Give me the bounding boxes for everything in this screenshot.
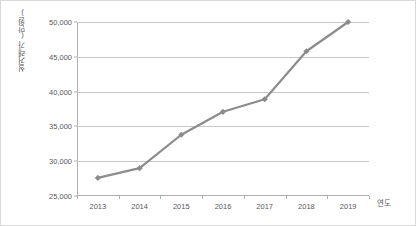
y-tick-label: 25,000 bbox=[49, 192, 72, 201]
x-tick-label: 2016 bbox=[215, 202, 232, 211]
x-tick-mark bbox=[244, 196, 245, 199]
x-tick-mark bbox=[160, 196, 161, 199]
x-tick-label: 2019 bbox=[340, 202, 357, 211]
x-tick-label: 2015 bbox=[173, 202, 190, 211]
x-tick-label: 2013 bbox=[90, 202, 107, 211]
series-line bbox=[98, 22, 348, 178]
data-point-marker bbox=[95, 175, 101, 181]
x-tick-mark bbox=[119, 196, 120, 199]
x-tick-label: 2018 bbox=[298, 202, 315, 211]
x-axis-title: 연도 bbox=[377, 197, 390, 208]
y-axis-title: 실거래가(만원) bbox=[13, 9, 31, 119]
y-tick-label: 40,000 bbox=[49, 87, 72, 96]
x-tick-label: 2017 bbox=[256, 202, 273, 211]
x-tick-mark bbox=[202, 196, 203, 199]
x-tick-mark bbox=[286, 196, 287, 199]
y-tick-label: 50,000 bbox=[49, 18, 72, 27]
chart-figure: 실거래가(만원) 25,00030,00035,00040,00045,0005… bbox=[0, 0, 416, 226]
y-tick-label: 35,000 bbox=[49, 122, 72, 131]
x-tick-mark bbox=[327, 196, 328, 199]
y-axis-title-text: 실거래가(만원) bbox=[17, 9, 28, 72]
plot-area: 25,00030,00035,00040,00045,00050,000 201… bbox=[77, 22, 369, 196]
x-tick-mark bbox=[369, 196, 370, 199]
x-tick-label: 2014 bbox=[131, 202, 148, 211]
y-tick-label: 45,000 bbox=[49, 52, 72, 61]
line-series bbox=[77, 22, 369, 196]
y-tick-label: 30,000 bbox=[49, 157, 72, 166]
x-tick-mark bbox=[77, 196, 78, 199]
